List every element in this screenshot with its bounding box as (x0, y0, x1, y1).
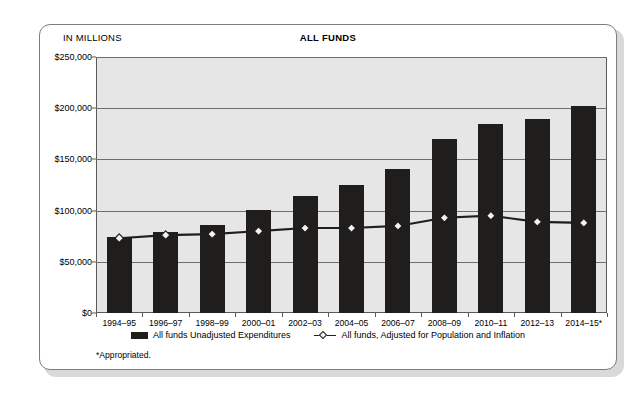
x-axis-tick-label: 1994–95 (102, 318, 135, 328)
x-axis-tick-label: 1996–97 (149, 318, 182, 328)
x-axis-tick-mark (189, 313, 190, 317)
x-axis-tick-mark (142, 313, 143, 317)
x-axis-tick-mark (328, 313, 329, 317)
chart-legend: All funds Unadjusted Expenditures All fu… (40, 330, 616, 340)
x-axis-tick-label: 1998–99 (195, 318, 228, 328)
line-marker (347, 224, 356, 233)
line-marker (394, 222, 403, 231)
chart-title: ALL FUNDS (40, 32, 616, 43)
legend-item-line: All funds, Adjusted for Population and I… (314, 330, 525, 340)
x-axis-tick-label: 2012–13 (521, 318, 554, 328)
footnote: *Appropriated. (96, 350, 151, 360)
legend-line-label: All funds, Adjusted for Population and I… (341, 330, 525, 340)
line-series (96, 57, 607, 313)
chart-card: IN MILLIONS ALL FUNDS $0$50,000$100,000$… (39, 24, 617, 370)
x-axis-tick-label: 2010–11 (474, 318, 507, 328)
line-marker (533, 218, 542, 227)
x-axis-tick-label: 2006–07 (381, 318, 414, 328)
legend-line-swatch (314, 331, 336, 340)
line-marker (115, 234, 124, 243)
legend-item-bar: All funds Unadjusted Expenditures (131, 330, 291, 340)
x-axis-tick-mark (561, 313, 562, 317)
x-axis-tick-mark (468, 313, 469, 317)
x-axis-tick-label: 2008–09 (428, 318, 461, 328)
y-axis-tick-label: $0 (82, 308, 92, 318)
plot-wrapper: $0$50,000$100,000$150,000$200,000$250,00… (96, 57, 607, 313)
legend-bar-swatch (131, 332, 148, 339)
x-axis-tick-label: 2014–15* (565, 318, 602, 328)
x-axis-tick-mark (607, 313, 608, 317)
y-axis-tick-label: $100,000 (54, 206, 92, 216)
x-axis-tick-mark (282, 313, 283, 317)
y-axis-tick-label: $50,000 (59, 257, 92, 267)
line-marker (440, 213, 449, 222)
y-axis-tick-label: $200,000 (54, 103, 92, 113)
line-marker (579, 219, 588, 228)
y-axis-tick-label: $250,000 (54, 52, 92, 62)
line-marker (487, 211, 496, 220)
x-axis-tick-label: 2000–01 (242, 318, 275, 328)
x-axis-tick-label: 2004–05 (335, 318, 368, 328)
x-axis-tick-mark (96, 313, 97, 317)
x-axis-tick-mark (421, 313, 422, 317)
line-marker (208, 230, 217, 239)
line-marker (301, 224, 310, 233)
x-axis-tick-mark (235, 313, 236, 317)
y-axis-tick-label: $150,000 (54, 154, 92, 164)
x-axis-tick-mark (375, 313, 376, 317)
x-axis-tick-label: 2002–03 (288, 318, 321, 328)
x-axis-tick-mark (514, 313, 515, 317)
line-marker (254, 227, 263, 236)
legend-bar-label: All funds Unadjusted Expenditures (153, 330, 291, 340)
line-marker (161, 231, 170, 240)
